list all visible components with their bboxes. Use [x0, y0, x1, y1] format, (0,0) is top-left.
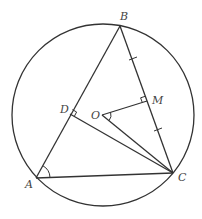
label-B: B — [119, 10, 128, 23]
label-M: M — [151, 94, 164, 107]
angle-arc-O — [109, 112, 111, 120]
segment-OM — [102, 101, 147, 115]
segment-AB — [36, 26, 120, 178]
label-O: O — [91, 109, 100, 122]
geometry-diagram: B A C D O M — [0, 0, 202, 219]
segment-DC — [70, 114, 173, 173]
label-C: C — [178, 171, 187, 184]
tick-mark-BM — [129, 57, 137, 60]
label-D: D — [59, 103, 69, 116]
segment-CA — [36, 173, 173, 178]
label-A: A — [24, 178, 33, 191]
angle-arc-A — [43, 166, 50, 178]
